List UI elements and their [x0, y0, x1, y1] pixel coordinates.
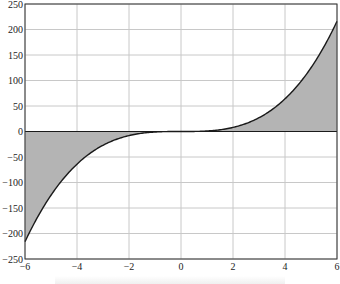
y-tick-label: 0	[18, 126, 23, 137]
x-tick-label: −2	[124, 261, 135, 272]
y-tick-label: −50	[7, 152, 23, 163]
y-tick-label: 200	[8, 24, 23, 35]
x-tick-label: 4	[283, 261, 288, 272]
x-tick-label: 0	[179, 261, 184, 272]
y-tick-label: −200	[2, 228, 23, 239]
y-tick-label: 50	[13, 101, 23, 112]
y-tick-label: 150	[8, 50, 23, 61]
x-tick-label: 2	[231, 261, 236, 272]
y-tick-label: −250	[2, 254, 23, 265]
y-tick-label: −150	[2, 203, 23, 214]
y-tick-label: −100	[2, 177, 23, 188]
y-axis-ticks: 250200150100500−50−100−150−200−250	[2, 0, 23, 265]
x-tick-label: 6	[335, 261, 340, 272]
y-tick-label: 250	[8, 0, 23, 10]
figure-caption-clipped	[55, 276, 285, 284]
y-tick-label: 100	[8, 75, 23, 86]
x-tick-label: −4	[72, 261, 83, 272]
x-axis-ticks: −6−4−20246	[20, 261, 340, 272]
